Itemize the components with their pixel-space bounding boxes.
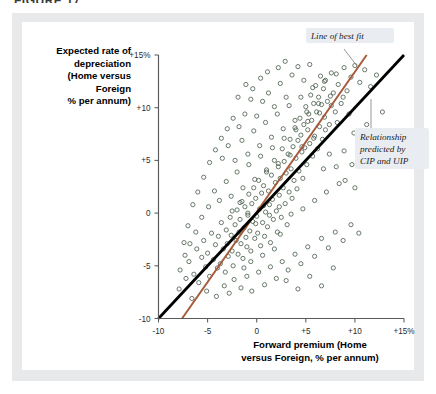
data-point [248, 229, 252, 233]
data-point [178, 268, 182, 272]
data-point [242, 266, 246, 270]
x-axis-title-line: Forward premium (Home [253, 339, 367, 350]
y-tick-label: -5 [143, 262, 151, 271]
data-point [254, 222, 258, 226]
data-point [212, 189, 216, 193]
data-point [259, 154, 263, 158]
data-point [321, 167, 325, 171]
data-point [241, 256, 245, 260]
data-point [253, 177, 257, 181]
data-point [267, 203, 271, 207]
data-point [190, 296, 194, 300]
annotation-label-best-fit: Line of best fit [310, 31, 364, 41]
data-point [290, 196, 294, 200]
trend-lines-group [159, 55, 405, 319]
data-point [250, 289, 254, 293]
data-point [229, 233, 233, 237]
data-point [299, 262, 303, 266]
data-point [244, 235, 248, 239]
data-point [236, 252, 240, 256]
data-point [213, 243, 217, 247]
data-point [260, 191, 264, 195]
data-point [256, 231, 260, 235]
data-point [247, 192, 251, 196]
data-point [308, 141, 312, 145]
data-point [223, 270, 227, 274]
data-point [342, 66, 346, 70]
data-point [206, 251, 210, 255]
data-point [334, 165, 338, 169]
x-tick-label: -10 [153, 327, 165, 336]
data-point [231, 264, 235, 268]
y-axis-title-line: depreciation [74, 58, 131, 69]
data-point [327, 152, 331, 156]
data-point [259, 244, 263, 248]
data-point [323, 128, 327, 132]
x-tick-label: 0 [254, 327, 259, 336]
data-point [296, 64, 300, 68]
data-point [214, 294, 218, 298]
data-point [277, 205, 281, 209]
data-point [233, 158, 237, 162]
data-point [269, 173, 273, 177]
data-point [249, 259, 253, 263]
x-tick-label: +15% [393, 327, 414, 336]
data-point [339, 101, 343, 105]
data-point [254, 196, 258, 200]
plot-svg: -10-50+5+10+15% -10-50+5+10+15% Expected… [0, 0, 436, 394]
data-point [287, 103, 291, 107]
y-axis-title: Expected rate ofdepreciation(Home versus… [56, 45, 131, 106]
data-point [337, 181, 341, 185]
data-point [195, 247, 199, 251]
data-point [213, 148, 217, 152]
data-point [187, 259, 191, 263]
data-point [293, 118, 297, 122]
x-tick-label: +10 [348, 327, 362, 336]
data-point [257, 270, 261, 274]
data-point [269, 135, 273, 139]
data-point [286, 268, 290, 272]
data-point [194, 230, 198, 234]
data-point [336, 82, 340, 86]
data-point [334, 72, 338, 76]
data-point [357, 231, 361, 235]
annotation-label-cip-uip-1: Relationship [359, 132, 407, 142]
data-point [358, 80, 362, 84]
x-tick-label: -5 [204, 327, 212, 336]
data-point [277, 193, 281, 197]
data-point [287, 190, 291, 194]
data-point [306, 245, 310, 249]
data-point [250, 202, 254, 206]
data-point [206, 205, 210, 209]
data-point [308, 274, 312, 278]
data-point [325, 99, 329, 103]
data-point [282, 159, 286, 163]
data-point [289, 212, 293, 216]
data-point [302, 78, 306, 82]
data-point [231, 116, 235, 120]
data-point [276, 66, 280, 70]
leader-line-best-fit [344, 49, 357, 66]
data-point [333, 110, 337, 114]
data-point [304, 105, 308, 109]
data-point [349, 223, 353, 227]
data-point [184, 276, 188, 280]
data-point [280, 147, 284, 151]
data-point [253, 236, 257, 240]
data-point [259, 76, 263, 80]
data-point [225, 127, 229, 131]
data-point [374, 73, 378, 77]
trend-line-cip-uip-45-degree-line [159, 55, 405, 319]
data-point [224, 228, 228, 232]
data-point [219, 220, 223, 224]
data-point [327, 122, 331, 126]
data-point [272, 105, 276, 109]
data-point [321, 87, 325, 91]
data-point [288, 137, 292, 141]
data-point [232, 277, 236, 281]
data-point [302, 122, 306, 126]
data-point [312, 101, 316, 105]
data-point [247, 163, 251, 167]
data-point [329, 71, 333, 75]
data-point [239, 242, 243, 246]
